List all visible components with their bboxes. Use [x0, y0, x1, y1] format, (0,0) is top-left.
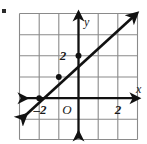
y-tick-label-2: 2 [59, 48, 67, 63]
graph-figure: y x 2 –2 2 O [0, 0, 147, 144]
point-marker [76, 53, 82, 59]
point-marker [56, 74, 62, 80]
origin-label: O [62, 102, 72, 117]
x-tick-label-2: 2 [114, 102, 122, 117]
point-marker [36, 95, 42, 101]
coordinate-plane-plot: y x 2 –2 2 O [0, 0, 147, 144]
y-axis-label: y [83, 15, 90, 29]
x-tick-label-neg2: –2 [33, 102, 48, 117]
x-axis-label: x [135, 82, 142, 96]
